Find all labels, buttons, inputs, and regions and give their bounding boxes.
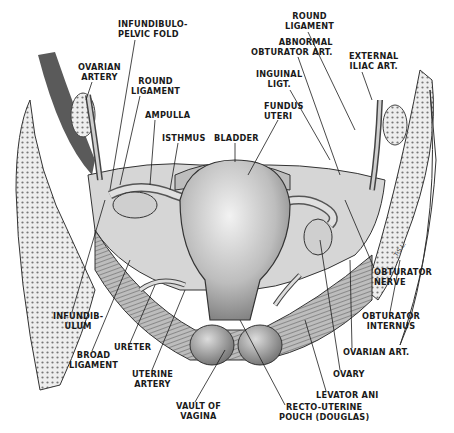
label-abnormal-obturator-art: ABNORMAL OBTURATOR ART. (251, 38, 333, 57)
rectum-right (238, 325, 282, 365)
right-ovary (304, 219, 332, 255)
left-ovary (113, 192, 157, 218)
label-ovarian-art-right: OVARIAN ART. (343, 348, 409, 358)
uterus (180, 160, 290, 320)
label-vault-of-vagina: VAULT OF VAGINA (176, 402, 221, 421)
label-recto-uterine-pouch: RECTO-UTERINE POUCH (DOUGLAS) (279, 403, 369, 422)
label-broad-ligament: BROAD LIGAMENT (69, 351, 118, 370)
label-uterine-artery: UTERINE ARTERY (132, 370, 173, 389)
label-infundibulum: INFUNDIB- ULUM (53, 312, 103, 331)
label-fundus-uteri: FUNDUS UTERI (264, 102, 304, 121)
label-isthmus: ISTHMUS (162, 134, 205, 144)
label-bladder: BLADDER (214, 134, 259, 144)
label-ovarian-artery: OVARIAN ARTERY (78, 63, 121, 82)
label-obturator-nerve: OBTURATOR NERVE (374, 268, 432, 287)
left-pelvic-wall (16, 52, 95, 390)
label-round-ligament-right: ROUND LIGAMENT (285, 12, 334, 31)
label-round-ligament-left: ROUND LIGAMENT (131, 77, 180, 96)
label-levator-ani: LEVATOR ANI (316, 391, 378, 401)
label-inguinal-ligt: INGUINAL LIGT. (256, 70, 302, 89)
label-infundibulo-pelvic-fold: INFUNDIBULO- PELVIC FOLD (118, 20, 188, 39)
label-ovary: OVARY (333, 370, 365, 380)
label-obturator-internus: OBTURATOR INTERNUS (362, 312, 420, 331)
rectum-left (190, 325, 234, 365)
label-ureter: URETER (114, 343, 151, 353)
label-external-iliac-art: EXTERNAL ILIAC ART. (349, 52, 398, 71)
label-ampulla: AMPULLA (145, 111, 190, 121)
